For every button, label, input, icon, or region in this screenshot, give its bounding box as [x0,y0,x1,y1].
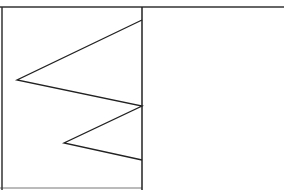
diagram-svg [0,0,284,190]
zigzag-line [17,20,142,160]
diagram-canvas [0,0,284,190]
